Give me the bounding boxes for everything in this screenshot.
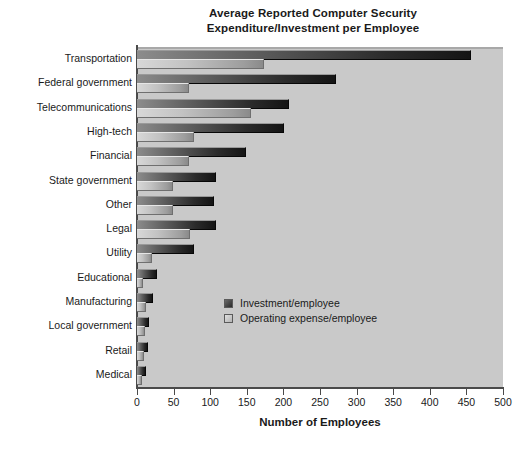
x-tick-label-350: 350 (384, 396, 402, 408)
y-label-manufacturing: Manufacturing (4, 295, 132, 307)
x-tick-label-400: 400 (421, 396, 439, 408)
y-label-local-government: Local government (4, 319, 132, 331)
chart-title-line-1: Average Reported Computer Security (118, 6, 508, 21)
y-label-other: Other (4, 198, 132, 210)
x-tick-400 (430, 389, 431, 395)
bar-operating-expense-medical (137, 375, 142, 385)
x-tick-label-450: 450 (458, 396, 476, 408)
x-tick-350 (393, 389, 394, 395)
y-label-high-tech: High-tech (4, 125, 132, 137)
plot-top-edge (137, 47, 503, 49)
bar-operating-expense-utility (137, 253, 152, 263)
y-label-legal: Legal (4, 222, 132, 234)
y-axis-category-labels: TransportationFederal governmentTelecomm… (0, 47, 132, 387)
x-tick-200 (283, 389, 284, 395)
y-label-retail: Retail (4, 344, 132, 356)
x-tick-label-150: 150 (238, 396, 256, 408)
bar-operating-expense-manufacturing (137, 302, 146, 312)
bar-operating-expense-financial (137, 156, 189, 166)
x-tick-label-250: 250 (311, 396, 329, 408)
x-tick-150 (247, 389, 248, 395)
x-tick-label-500: 500 (494, 396, 512, 408)
x-tick-label-200: 200 (275, 396, 293, 408)
y-label-educational: Educational (4, 271, 132, 283)
chart-title-line-2: Expenditure/Investment per Employee (118, 21, 508, 36)
chart-title: Average Reported Computer Security Expen… (118, 6, 508, 35)
bar-operating-expense-local-government (137, 326, 145, 336)
bar-operating-expense-legal (137, 229, 190, 239)
x-tick-label-0: 0 (134, 396, 140, 408)
bar-operating-expense-other (137, 205, 173, 215)
bar-operating-expense-state-government (137, 181, 173, 191)
y-label-utility: Utility (4, 246, 132, 258)
bar-operating-expense-transportation (137, 59, 264, 69)
y-label-telecommunications: Telecommunications (4, 101, 132, 113)
bar-operating-expense-federal-government (137, 83, 189, 93)
bar-operating-expense-high-tech (137, 132, 194, 142)
y-axis-line (136, 45, 138, 389)
x-tick-500 (503, 389, 504, 395)
x-tick-label-50: 50 (168, 396, 180, 408)
legend-label-operating-expense: Operating expense/employee (240, 312, 377, 324)
bar-operating-expense-telecommunications (137, 108, 251, 118)
x-tick-50 (174, 389, 175, 395)
y-label-federal-government: Federal government (4, 76, 132, 88)
legend-label-investment: Investment/employee (240, 297, 340, 309)
legend-item-investment: Investment/employee (224, 296, 377, 310)
x-tick-label-100: 100 (201, 396, 219, 408)
x-tick-250 (320, 389, 321, 395)
y-label-financial: Financial (4, 149, 132, 161)
bar-operating-expense-retail (137, 351, 144, 361)
x-tick-label-300: 300 (348, 396, 366, 408)
legend-swatch-operating-expense-icon (224, 314, 233, 323)
chart-container: Average Reported Computer Security Expen… (0, 0, 523, 452)
y-label-transportation: Transportation (4, 52, 132, 64)
x-tick-300 (357, 389, 358, 395)
legend-swatch-investment-icon (224, 299, 233, 308)
chart-legend: Investment/employee Operating expense/em… (224, 296, 377, 326)
x-tick-0 (137, 389, 138, 395)
legend-item-operating-expense: Operating expense/employee (224, 311, 377, 325)
x-tick-450 (466, 389, 467, 395)
x-axis-title: Number of Employees (137, 416, 503, 428)
bar-operating-expense-educational (137, 278, 143, 288)
y-label-state-government: State government (4, 174, 132, 186)
y-label-medical: Medical (4, 368, 132, 380)
x-tick-100 (210, 389, 211, 395)
